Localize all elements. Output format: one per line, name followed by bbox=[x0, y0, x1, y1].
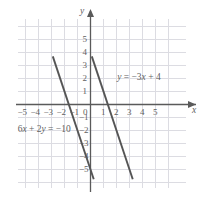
x-axis-label: x bbox=[192, 106, 196, 116]
y-tick--5: −5 bbox=[79, 165, 89, 174]
x-tick--3: −3 bbox=[44, 108, 54, 117]
x-tick-4: 4 bbox=[140, 108, 145, 117]
x-tick--1: −1 bbox=[70, 108, 80, 117]
y-tick--4: −4 bbox=[79, 152, 89, 161]
x-tick-5: 5 bbox=[153, 108, 158, 117]
y-tick--2: −2 bbox=[79, 126, 89, 135]
coordinate-graph: −5−4−3−2−101234554321−1−2−3−4−5 y = −3x … bbox=[0, 0, 205, 200]
x-tick--2: −2 bbox=[57, 108, 67, 117]
y-axis-label: y bbox=[80, 7, 84, 17]
y-tick-2: 2 bbox=[83, 74, 88, 83]
eq-line-b: y = −3x + 4 bbox=[117, 73, 161, 83]
grid-lines bbox=[18, 19, 186, 188]
y-tick-4: 4 bbox=[83, 48, 88, 57]
x-tick--5: −5 bbox=[18, 108, 28, 117]
plot-area bbox=[0, 0, 205, 200]
y-tick-3: 3 bbox=[83, 61, 88, 70]
x-tick--4: −4 bbox=[31, 108, 41, 117]
x-tick-2: 2 bbox=[114, 108, 119, 117]
y-tick-1: 1 bbox=[83, 87, 88, 96]
y-tick--3: −3 bbox=[79, 139, 89, 148]
eq-line-a: 6x + 2y = −10 bbox=[18, 125, 71, 135]
y-tick--1: −1 bbox=[79, 113, 89, 122]
x-tick-1: 1 bbox=[101, 108, 106, 117]
y-tick-5: 5 bbox=[83, 35, 88, 44]
x-tick-3: 3 bbox=[127, 108, 132, 117]
